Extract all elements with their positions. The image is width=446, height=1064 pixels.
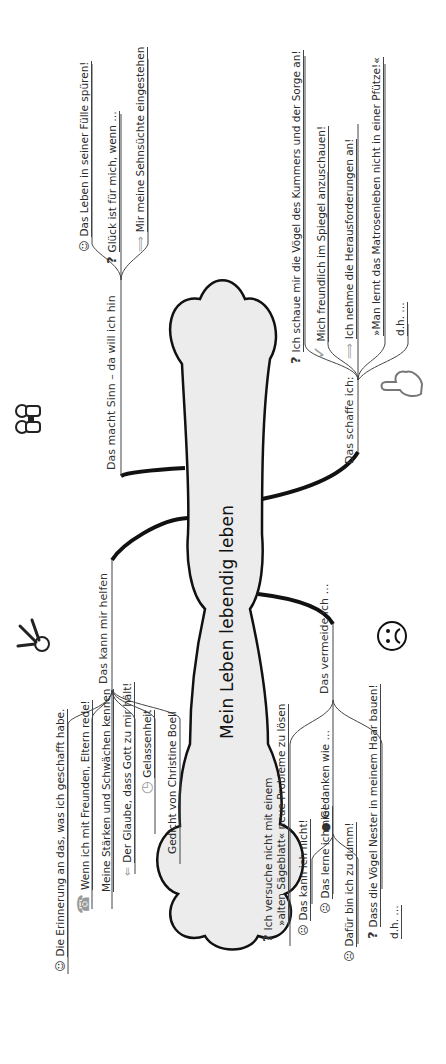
list-item: d.h. …	[394, 302, 406, 336]
list-item: »Man lernt das Matrosenleben nicht in ei…	[370, 57, 382, 336]
branch-label-vermeide: Das vermeide ich …	[319, 584, 331, 694]
arrow-icon: ⟹	[344, 343, 356, 359]
branch-label-helfen: Das kann mir helfen	[98, 573, 110, 684]
central-title: Mein Leben lebendig leben	[217, 505, 237, 739]
sad-icon: ☹	[344, 951, 356, 962]
list-item: ☹Dafür bin ich zu dumm!	[343, 822, 356, 962]
clock-icon: ◷	[140, 782, 152, 794]
list-item: d.h. …	[388, 905, 400, 939]
question-icon: ?	[106, 256, 118, 264]
list-item: ☎Wenn ich mit Freunden, Eltern rede!	[78, 700, 91, 914]
branch-label-schaffe: Das schaffe ich:	[344, 376, 356, 464]
list-item: ?Ich schaue mir die Vögel des Kummers un…	[290, 50, 302, 364]
branch-label-sinn: Das macht Sinn – da will ich hin	[106, 295, 118, 470]
list-item: Meine Stärken und Schwächen kennen	[100, 689, 112, 892]
list-item: ⟹Mir meine Sehnsüchte eingestehen	[134, 47, 147, 252]
list-item: ☺Das Leben in seiner Fülle spüren!	[78, 61, 91, 252]
check-icon: ✓	[314, 346, 326, 359]
list-item: »alten Sägeblatt« neue Probleme zu lösen	[275, 704, 287, 926]
smile-icon: ☺	[79, 241, 91, 252]
mindmap-stage: Mein Leben lebendig leben Das macht Sinn…	[0, 0, 446, 1064]
list-item: ?Glück ist für mich, wenn …	[106, 111, 118, 264]
question-icon: ?	[367, 931, 379, 939]
sad-icon: ☹	[320, 903, 332, 914]
list-item: ⇐Der Glaube, dass Gott zu mir hält!	[121, 682, 134, 876]
list-item: ◷Gelassenheit	[140, 710, 153, 794]
list-item: ☺Die Erinnerung an das, was ich geschaff…	[54, 709, 67, 972]
list-item: ☹Das kann ich nicht!	[297, 819, 310, 936]
list-item: ?Ich versuche nicht mit einem	[262, 777, 274, 942]
list-item: ⟹Ich nehme die Herausforderungen an!	[343, 139, 356, 359]
sad-icon: ☹	[298, 925, 310, 936]
list-item: ☹Das lerne ich nie!	[319, 806, 332, 914]
arrow-icon: ⇐	[122, 867, 134, 876]
keys-icon	[14, 616, 56, 656]
question-icon: ?	[262, 934, 274, 942]
arrow-icon: ⟹	[135, 236, 147, 252]
list-item: ?Dass die Vögel Nester in meinem Haar ba…	[367, 684, 379, 939]
smile-icon: ☺	[55, 961, 67, 972]
question-icon: ?	[290, 356, 302, 364]
telephone-icon: ☎	[78, 894, 90, 914]
binoculars-icon	[12, 400, 50, 436]
list-item: Gedicht von Christine Boell	[166, 711, 178, 854]
sad-face-icon	[376, 620, 412, 652]
pointing-hand-icon	[376, 364, 430, 404]
list-item: ✓Mich freundlich im Spiegel anzuschauen!	[314, 126, 327, 359]
